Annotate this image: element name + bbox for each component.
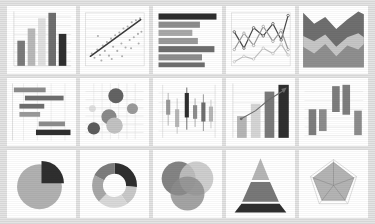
bubble-chart-svg <box>80 78 149 146</box>
chart-tile-column-chart[interactable] <box>7 6 76 74</box>
chart-tile-pyramid-chart[interactable] <box>226 150 295 218</box>
stacked-area-chart-svg <box>299 6 368 74</box>
combo-bar-line-chart-svg <box>226 78 295 146</box>
chart-grid <box>7 6 368 218</box>
chart-tile-pie-chart[interactable] <box>7 150 76 218</box>
scatter-chart-svg <box>80 6 149 74</box>
chart-tile-bubble-chart[interactable] <box>80 78 149 146</box>
chart-tile-donut-chart[interactable] <box>80 150 149 218</box>
multi-line-chart-svg <box>226 6 295 74</box>
pyramid-chart-svg <box>226 150 295 218</box>
gantt-chart-svg <box>7 78 76 146</box>
donut-chart-svg <box>80 150 149 218</box>
chart-tile-horizontal-bar-chart[interactable] <box>153 6 222 74</box>
chart-thumbnail-board <box>0 0 375 224</box>
chart-tile-candlestick-chart[interactable] <box>153 78 222 146</box>
horizontal-bar-chart-svg <box>153 6 222 74</box>
chart-tile-combo-bar-line-chart[interactable] <box>226 78 295 146</box>
candlestick-chart-svg <box>153 78 222 146</box>
chart-tile-venn-diagram[interactable] <box>153 150 222 218</box>
radar-chart-svg <box>299 150 368 218</box>
chart-tile-waterfall-chart[interactable] <box>299 78 368 146</box>
waterfall-chart-svg <box>299 78 368 146</box>
column-chart-svg <box>7 6 76 74</box>
chart-tile-scatter-chart[interactable] <box>80 6 149 74</box>
chart-tile-multi-line-chart[interactable] <box>226 6 295 74</box>
venn-diagram-svg <box>153 150 222 218</box>
chart-tile-stacked-area-chart[interactable] <box>299 6 368 74</box>
chart-tile-gantt-chart[interactable] <box>7 78 76 146</box>
pie-chart-svg <box>7 150 76 218</box>
chart-tile-radar-chart[interactable] <box>299 150 368 218</box>
